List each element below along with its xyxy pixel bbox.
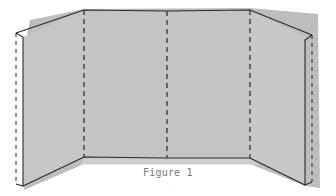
panel-left — [23, 10, 84, 186]
folding-screen-figure: Figure 1 — [0, 0, 336, 196]
panel-center-left — [84, 10, 167, 158]
panel-right — [250, 10, 305, 185]
panel-center-right — [167, 10, 250, 158]
figure-caption: Figure 1 — [143, 167, 203, 178]
floor-highlight — [80, 158, 260, 165]
left-inner-edge — [16, 33, 23, 186]
